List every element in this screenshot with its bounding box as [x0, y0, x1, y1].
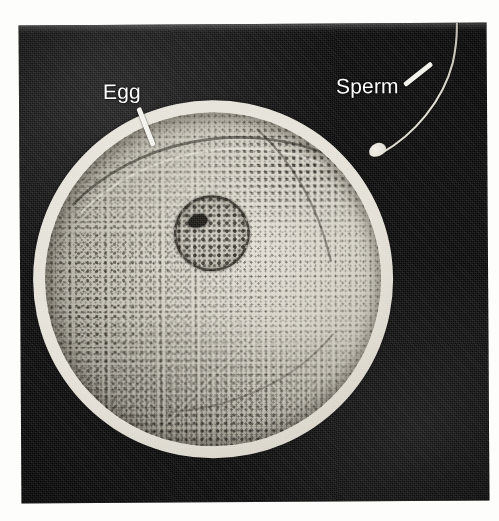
- label-sperm: Sperm: [336, 75, 399, 96]
- egg-nucleus: [174, 195, 250, 271]
- cytoplasm-granules-upper-right: [44, 111, 382, 447]
- scan-top-band: [19, 23, 487, 38]
- page-canvas: and a: [0, 0, 499, 521]
- cut-off-text: and a: [6, 0, 126, 1]
- nucleus-texture: [174, 195, 250, 271]
- leader-line-sperm: [403, 61, 434, 87]
- photomicrograph: Egg Sperm: [19, 23, 490, 504]
- cut-off-text-line: and a: [6, 0, 126, 9]
- label-egg: Egg: [103, 81, 141, 102]
- egg-cytoplasm: [44, 111, 382, 447]
